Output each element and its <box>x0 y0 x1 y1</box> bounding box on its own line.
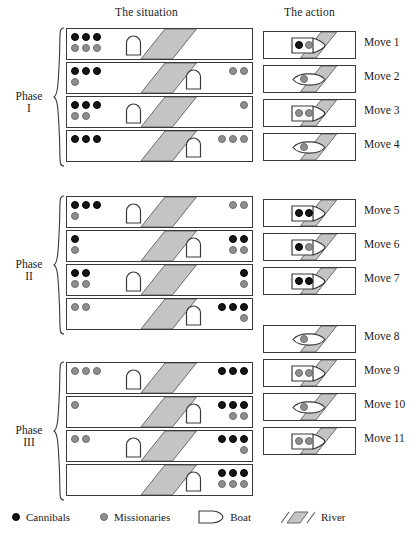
missionary-dot-icon <box>295 109 303 117</box>
boat-icon <box>291 139 327 156</box>
cannibal-row <box>71 101 101 110</box>
move-label: Move 7 <box>364 272 399 284</box>
situation-row <box>66 96 253 128</box>
missionary-dot-icon <box>82 112 90 120</box>
missionary-row <box>218 480 248 489</box>
missionary-dot-icon <box>71 212 79 220</box>
phase-brace-2 <box>53 195 65 335</box>
missionary-row <box>71 112 90 121</box>
action-row <box>263 393 356 421</box>
missionary-dot-icon <box>240 280 248 288</box>
people-group-right <box>218 367 248 376</box>
boat-occupants <box>295 277 313 285</box>
boat-icon <box>185 471 202 492</box>
move-label: Move 9 <box>364 364 399 376</box>
missionary-dot-icon <box>82 280 90 288</box>
cannibal-dot-icon <box>82 67 90 75</box>
cannibal-dot-icon <box>82 201 90 209</box>
cannibal-dot-icon <box>240 367 248 375</box>
people-group-left <box>71 33 101 53</box>
legend-item-river: River <box>281 511 345 524</box>
people-group-left <box>71 201 101 221</box>
missionary-row <box>71 303 90 312</box>
column-header-action: The action <box>284 6 335 18</box>
boat-icon <box>125 271 142 292</box>
missionary-dot-icon <box>229 135 237 143</box>
phase-numeral: II <box>4 270 54 282</box>
people-group-right <box>218 303 248 323</box>
situation-row <box>66 130 253 162</box>
cannibal-row <box>71 269 90 278</box>
action-row <box>263 31 356 59</box>
boat-icon <box>291 331 327 348</box>
boat-icon <box>185 305 202 326</box>
missionary-dot-icon <box>218 135 226 143</box>
cannibal-row <box>218 435 248 444</box>
action-row <box>263 427 356 455</box>
cannibal-dot-icon <box>71 201 79 209</box>
cannibal-dot-icon <box>93 135 101 143</box>
cannibal-row <box>218 303 248 312</box>
situation-row <box>66 396 253 428</box>
missionary-dot-icon <box>218 480 226 488</box>
missionary-dot-icon <box>240 314 248 322</box>
boat-icon <box>185 69 202 90</box>
missionary-dot-icon <box>305 369 313 377</box>
boat-occupants <box>295 109 313 117</box>
legend: Cannibals Missionaries Boat River <box>8 506 413 528</box>
cannibal-dot-icon <box>229 435 237 443</box>
phase-word: Phase <box>4 258 54 270</box>
right-bank <box>176 29 248 59</box>
river-icon <box>281 511 315 524</box>
cannibal-dot-icon <box>218 401 226 409</box>
action-row <box>263 325 356 353</box>
missionary-dot-icon <box>71 303 79 311</box>
missionary-row <box>240 314 248 323</box>
left-bank <box>71 63 143 93</box>
missionary-dot-icon <box>71 44 79 52</box>
boat-icon <box>125 103 142 124</box>
people-group-right <box>229 201 248 210</box>
cannibal-dot-icon <box>295 243 303 251</box>
move-label: Move 6 <box>364 238 399 250</box>
move-label: Move 3 <box>364 104 399 116</box>
missionary-dot-icon <box>305 243 313 251</box>
action-row <box>263 199 356 227</box>
cannibal-row <box>218 367 248 376</box>
people-group-left <box>71 269 90 289</box>
cannibal-dot-icon <box>295 209 303 217</box>
cannibal-dot-icon <box>229 303 237 311</box>
missionary-row <box>71 401 79 410</box>
boat-occupants <box>295 243 313 251</box>
phase-word: Phase <box>4 90 54 102</box>
people-group-left <box>71 303 90 312</box>
missionary-dot-icon <box>295 437 303 445</box>
cannibal-dot-icon <box>93 101 101 109</box>
people-group-right <box>229 67 248 76</box>
action-row <box>263 65 356 93</box>
people-group-right <box>229 235 248 255</box>
missionary-row <box>240 280 248 289</box>
right-bank <box>176 431 248 461</box>
boat-occupants <box>300 403 308 411</box>
situation-row <box>66 230 253 262</box>
cannibal-dot-icon <box>218 435 226 443</box>
people-group-right <box>218 135 248 144</box>
situation-row <box>66 264 253 296</box>
missionary-dot-icon <box>229 246 237 254</box>
missionary-dot-icon <box>71 280 79 288</box>
missionary-dot-icon <box>240 135 248 143</box>
action-row <box>263 99 356 127</box>
phase-label-3: Phase III <box>4 424 54 448</box>
people-group-right <box>240 101 248 110</box>
cannibal-row <box>229 235 248 244</box>
phase-numeral: III <box>4 436 54 448</box>
missionary-row <box>218 135 248 144</box>
left-bank <box>71 231 143 261</box>
missionary-dot-icon <box>93 44 101 52</box>
people-group-right <box>218 401 248 421</box>
boat-icon <box>291 71 327 88</box>
missionary-dot-icon <box>82 303 90 311</box>
situation-row <box>66 298 253 330</box>
cannibal-row <box>71 33 101 42</box>
